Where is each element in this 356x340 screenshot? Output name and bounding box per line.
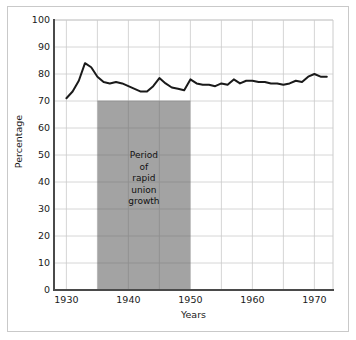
annotation-line-5: growth [101,196,187,208]
y-tick-label: 60 [4,123,50,133]
x-axis-title: Years [54,309,333,320]
x-tick-label: 1960 [230,294,274,305]
y-tick-label: 30 [4,204,50,214]
x-axis-spine [53,289,334,291]
y-axis-title: Percentage [13,102,24,182]
x-tick-label: 1950 [168,294,212,305]
y-tick-label: 80 [4,69,50,79]
annotation-line-3: rapid [101,173,187,185]
x-tick-label: 1940 [106,294,150,305]
plot-area [54,20,333,290]
y-axis-spine [53,19,55,291]
y-tick-label: 40 [4,177,50,187]
chart-figure: 1009080706050403020100 19301940195019601… [0,0,356,340]
y-tick-label: 100 [4,15,50,25]
x-tick-label: 1930 [44,294,88,305]
y-tick-label: 90 [4,42,50,52]
y-tick-label: 20 [4,231,50,241]
data-line [54,20,333,290]
x-tick-label: 1970 [292,294,336,305]
y-axis-ticks: 1009080706050403020100 [0,0,50,340]
annotation-line-1: Period [101,150,187,162]
annotation-line-2: of [101,162,187,174]
y-tick-label: 70 [4,96,50,106]
shaded-region-label: Period of rapid union growth [101,150,187,208]
y-tick-label: 10 [4,258,50,268]
annotation-line-4: union [101,185,187,197]
x-axis-ticks: 19301940195019601970 [0,294,356,308]
y-tick-label: 50 [4,150,50,160]
